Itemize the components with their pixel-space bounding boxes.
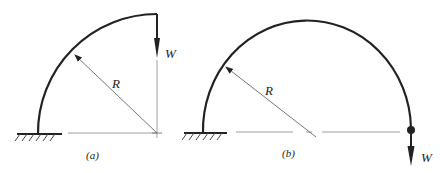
semicircular-arc bbox=[203, 21, 411, 133]
diagram: W R (a) R (b) W bbox=[0, 0, 440, 173]
fixed-support-icon bbox=[15, 134, 62, 141]
panel-a bbox=[15, 14, 162, 141]
panel-b bbox=[182, 21, 415, 166]
caption-b: (b) bbox=[282, 147, 295, 159]
radius-line bbox=[75, 55, 157, 133]
load-arrow-icon bbox=[154, 38, 160, 58]
load-label-a: W bbox=[165, 46, 176, 62]
radius-label-b: R bbox=[265, 83, 273, 99]
load-arrow-icon bbox=[408, 146, 415, 166]
caption-a: (a) bbox=[86, 149, 99, 161]
radius-line bbox=[226, 67, 316, 137]
fixed-support-icon bbox=[182, 133, 227, 140]
load-label-b: W bbox=[421, 150, 432, 166]
radius-label-a: R bbox=[112, 76, 120, 92]
